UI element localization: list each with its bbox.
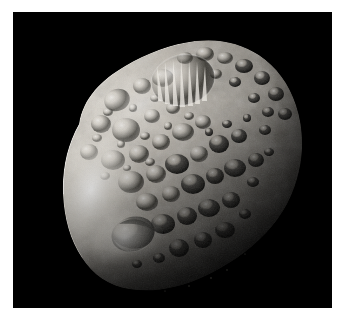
image-alt-text: Close-up photograph of Saturn's moon Hyp…: [0, 0, 1, 1]
photo-frame: Close-up photograph of Saturn's moon Hyp…: [0, 0, 346, 319]
space-background: [13, 12, 332, 308]
moon-image: [13, 12, 332, 308]
